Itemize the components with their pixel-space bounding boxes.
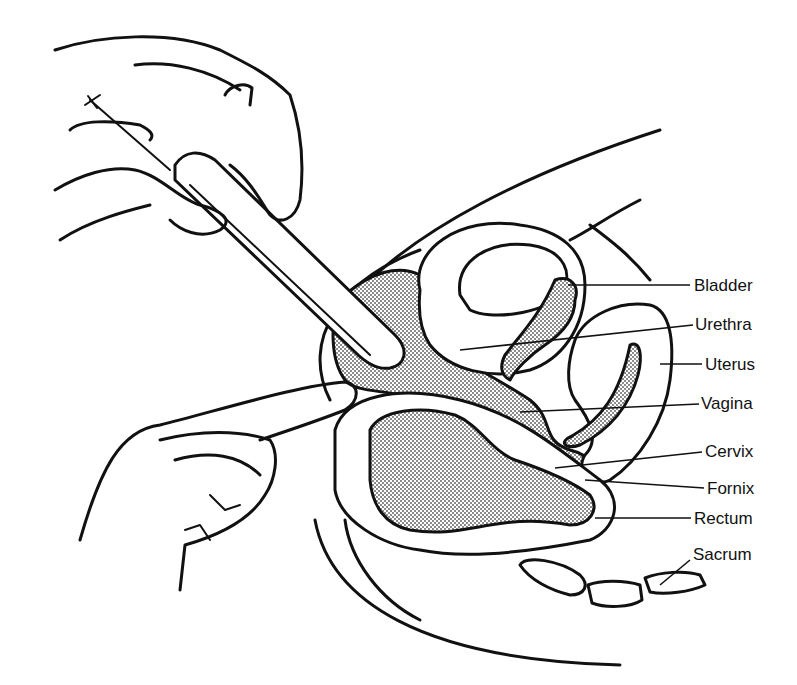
sacrum <box>520 560 705 607</box>
label-uterus: Uterus <box>705 356 755 373</box>
label-rectum: Rectum <box>694 510 753 527</box>
bladder <box>419 223 585 380</box>
label-urethra: Urethra <box>695 316 752 333</box>
rectum <box>335 393 614 554</box>
instrument <box>85 95 404 368</box>
pelvis-diagram <box>0 0 797 685</box>
label-fornix: Fornix <box>707 480 754 497</box>
label-cervix: Cervix <box>705 443 753 460</box>
label-sacrum: Sacrum <box>693 546 752 563</box>
label-vagina: Vagina <box>701 395 753 412</box>
lower-hand <box>80 382 356 590</box>
label-bladder: Bladder <box>694 277 753 294</box>
upper-hand <box>55 37 302 240</box>
